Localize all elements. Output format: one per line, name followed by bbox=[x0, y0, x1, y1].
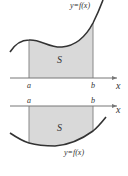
top-x-label: x bbox=[115, 80, 121, 91]
area-diagrams: y=f(x) S a b x a b x S y=f(x) bbox=[0, 0, 128, 176]
bottom-diagram: a b x S y=f(x) bbox=[10, 96, 121, 157]
top-shaded-region bbox=[29, 23, 93, 78]
bottom-b-label: b bbox=[91, 96, 95, 105]
bottom-a-label: a bbox=[27, 96, 31, 105]
bottom-region-label: S bbox=[57, 122, 62, 133]
top-diagram: y=f(x) S a b x bbox=[10, 0, 121, 91]
bottom-curve-label: y=f(x) bbox=[63, 148, 84, 157]
bottom-x-label: x bbox=[115, 104, 121, 115]
top-b-label: b bbox=[91, 81, 95, 90]
top-a-label: a bbox=[27, 81, 31, 90]
top-region-label: S bbox=[57, 54, 62, 65]
top-curve-label: y=f(x) bbox=[69, 1, 90, 10]
